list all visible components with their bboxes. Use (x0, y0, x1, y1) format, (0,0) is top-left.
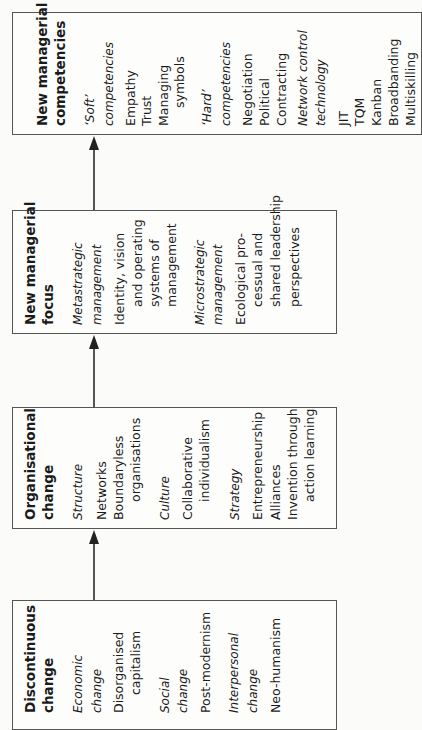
category-label: Metastrategic (71, 242, 85, 325)
category-label: competencies (219, 42, 233, 126)
box-title: New managerial (23, 202, 37, 325)
item-label: Neo-humanism (269, 618, 283, 713)
item-label: Contracting (275, 53, 289, 126)
box-title: change (41, 658, 55, 713)
item-label: TQM (353, 98, 367, 126)
box-discontinuous: DiscontinuouschangeEconomicchangeDisorga… (12, 600, 337, 730)
box-title: Discontinuous (23, 605, 37, 713)
category-label: Strategy (228, 469, 242, 520)
item-label: Broadbanding (387, 39, 401, 126)
category-label: Interpersonal (227, 633, 241, 713)
item-label: Invention through (286, 408, 300, 520)
box-title: focus (41, 284, 55, 325)
category-label: ‘Soft’ (83, 94, 97, 126)
item-label: organisations (129, 418, 143, 502)
box-title: Organisational (23, 408, 37, 520)
item-label: and operating (131, 219, 145, 307)
arrowhead-icon (89, 530, 99, 544)
item-label: capitalism (129, 631, 143, 695)
box-focus: New managerialfocusMetastrategicmanageme… (12, 210, 337, 334)
item-label: Post-modernism (199, 612, 213, 713)
item-label: Empathy (124, 70, 138, 126)
category-label: management (90, 245, 104, 325)
item-label: perspectives (288, 227, 302, 307)
category-label: change (90, 669, 104, 713)
arrowhead-icon (89, 335, 99, 349)
category-label: Network control (296, 30, 310, 126)
item-label: Entrepreneurship (251, 412, 265, 520)
category-label: Microstrategic (193, 240, 207, 325)
item-label: JIT (337, 111, 351, 126)
item-label: Managing (157, 65, 171, 126)
category-label: change (176, 669, 190, 713)
arrow-organisational-to-focus (93, 344, 95, 407)
item-label: shared leadership (269, 195, 283, 307)
item-label: action learning (303, 409, 317, 502)
item-label: Identity, vision (113, 233, 127, 325)
item-label: symbols (173, 56, 187, 108)
item-label: Collaborative (181, 437, 195, 520)
item-label: cessual and (251, 233, 265, 307)
box-title: competencies (53, 21, 67, 126)
category-label: Culture (158, 476, 172, 520)
category-label: Structure (71, 464, 85, 520)
item-label: Negotiation (241, 53, 255, 126)
category-label: Economic (71, 655, 85, 713)
item-label: Political (258, 78, 272, 126)
box-title: change (41, 465, 55, 520)
box-competencies: New managerialcompetencies‘Soft’competen… (12, 12, 422, 135)
item-label: Ecological pro- (234, 233, 248, 325)
item-label: individualism (198, 419, 212, 502)
category-label: ‘Hard’ (200, 89, 214, 126)
item-label: Networks (95, 461, 109, 520)
category-label: change (246, 669, 260, 713)
item-label: Boundaryless (112, 436, 126, 520)
category-label: technology (314, 59, 328, 126)
item-label: Trust (140, 96, 154, 126)
arrow-focus-to-competencies (93, 145, 95, 210)
item-label: Alliances (269, 464, 283, 520)
box-organisational: OrganisationalchangeStructureNetworksBou… (12, 407, 337, 529)
item-label: Kanban (370, 79, 384, 126)
arrow-discontinuous-to-organisational (93, 539, 95, 600)
item-label: Disorganised (112, 632, 126, 713)
category-label: Social (158, 677, 172, 713)
arrowhead-icon (89, 136, 99, 150)
item-label: management (165, 223, 179, 307)
item-label: systems of (148, 239, 162, 307)
category-label: competencies (102, 42, 116, 126)
category-label: management (211, 245, 225, 325)
box-title: New managerial (35, 3, 49, 126)
item-label: Multiskilling (404, 52, 418, 126)
